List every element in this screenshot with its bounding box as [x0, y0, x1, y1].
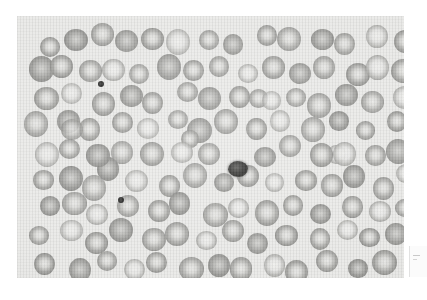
erythrocyte [35, 142, 59, 167]
erythrocyte [29, 226, 49, 245]
erythrocyte [238, 64, 258, 83]
erythrocyte [34, 253, 55, 275]
erythrocyte [313, 56, 335, 79]
erythrocyte [247, 233, 268, 254]
erythrocyte [262, 91, 282, 109]
erythrocyte [146, 252, 167, 273]
erythrocyte [82, 175, 106, 201]
erythrocyte [59, 166, 83, 192]
erythrocyte [183, 163, 208, 188]
nucleated-cell [228, 161, 248, 177]
erythrocyte [365, 145, 386, 167]
erythrocyte [40, 37, 60, 57]
erythrocyte [112, 112, 133, 133]
erythrocyte [199, 30, 219, 50]
erythrocyte [203, 203, 228, 227]
erythrocyte [310, 228, 331, 250]
erythrocyte [366, 55, 389, 80]
erythrocyte [86, 144, 109, 167]
erythrocyte [391, 59, 404, 82]
erythrocyte [316, 250, 338, 272]
erythrocyte [86, 204, 108, 226]
erythrocyte [214, 109, 238, 134]
erythrocyte [335, 84, 358, 107]
erythrocyte [361, 91, 384, 113]
erythrocyte [142, 228, 166, 251]
erythrocyte [165, 222, 189, 246]
erythrocyte [265, 173, 285, 192]
erythrocyte [183, 60, 203, 81]
erythrocyte [373, 177, 394, 200]
erythrocyte [198, 87, 221, 110]
erythrocyte [102, 59, 124, 81]
erythrocyte [394, 30, 404, 53]
erythrocyte [142, 92, 163, 114]
erythrocyte [395, 199, 404, 218]
erythrocyte [230, 257, 253, 278]
erythrocyte [286, 88, 306, 107]
erythrocyte [301, 117, 325, 142]
artifact-tick-mark-secondary [413, 259, 417, 260]
artifact-tick-mark [413, 255, 420, 256]
erythrocyte [64, 29, 88, 52]
erythrocyte [393, 86, 404, 109]
erythrocyte [62, 192, 86, 215]
erythrocyte [198, 143, 220, 165]
erythrocyte [50, 55, 73, 78]
erythrocyte [214, 173, 234, 193]
erythrocyte [97, 251, 118, 271]
erythrocyte [311, 29, 334, 50]
erythrocyte [69, 258, 91, 278]
erythrocyte [79, 60, 102, 82]
erythrocyte [140, 142, 164, 167]
erythrocyte [166, 29, 190, 55]
erythrocyte [208, 254, 230, 277]
erythrocyte [254, 147, 276, 168]
erythrocyte [120, 85, 143, 107]
erythrocyte [310, 204, 331, 224]
erythrocyte [277, 27, 301, 52]
erythrocyte [270, 110, 290, 131]
erythrocyte [125, 170, 148, 193]
erythrocyte [289, 63, 312, 85]
erythrocyte [60, 220, 83, 242]
erythrocyte [129, 64, 149, 84]
erythrocyte [92, 92, 116, 117]
erythrocyte [337, 220, 358, 240]
erythrocyte [310, 143, 332, 167]
erythrocyte [141, 28, 164, 50]
erythrocyte [246, 118, 267, 140]
erythrocyte [222, 220, 244, 242]
erythrocyte [111, 141, 133, 165]
erythrocyte [334, 33, 355, 56]
erythrocyte [157, 54, 182, 80]
erythrocyte [228, 198, 249, 218]
erythrocyte [61, 83, 83, 104]
erythrocyte [386, 139, 404, 164]
erythrocyte [124, 259, 145, 278]
erythrocyte [385, 223, 404, 245]
erythrocyte [343, 165, 364, 188]
erythrocyte [177, 82, 198, 102]
erythrocyte [179, 257, 203, 278]
erythrocyte [285, 260, 309, 278]
erythrocyte [307, 93, 331, 117]
erythrocyte [396, 164, 404, 183]
erythrocyte [255, 200, 279, 226]
erythrocyte [342, 196, 363, 217]
erythrocyte [171, 142, 193, 163]
erythrocyte [321, 174, 342, 196]
erythrocyte [196, 231, 216, 250]
erythrocyte [348, 259, 368, 278]
erythrocyte [356, 121, 376, 140]
erythrocyte [366, 25, 388, 49]
erythrocyte [264, 254, 285, 276]
erythrocyte [295, 170, 316, 190]
platelet [118, 197, 124, 203]
platelet [98, 81, 104, 87]
erythrocyte [257, 25, 277, 46]
erythrocyte [387, 111, 404, 132]
erythrocyte [262, 56, 285, 79]
erythrocyte [169, 192, 190, 215]
erythrocyte [33, 170, 53, 190]
